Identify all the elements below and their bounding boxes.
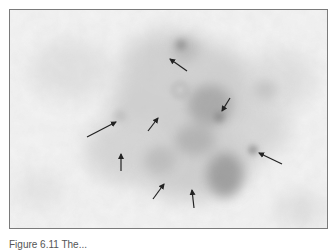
figure-caption: Figure 6.11 The... [9, 238, 87, 252]
micrograph-image [9, 9, 328, 229]
micrograph-canvas [10, 10, 328, 229]
